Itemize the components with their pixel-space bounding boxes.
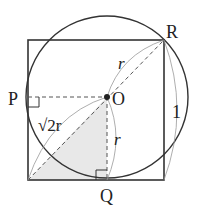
label-O: O	[112, 89, 125, 109]
diagram-canvas: P O Q R r r √2r 1	[0, 0, 201, 221]
label-P: P	[8, 89, 18, 109]
center-dot-O	[104, 94, 110, 100]
label-side-1: 1	[172, 102, 181, 122]
right-angle-P	[28, 97, 39, 107]
label-r-lower: r	[114, 130, 121, 149]
label-r-upper: r	[118, 54, 125, 73]
label-R: R	[166, 22, 178, 42]
label-Q: Q	[100, 186, 113, 206]
geometry-diagram: P O Q R r r √2r 1	[0, 0, 201, 221]
label-sqrt2r: √2r	[38, 116, 62, 135]
